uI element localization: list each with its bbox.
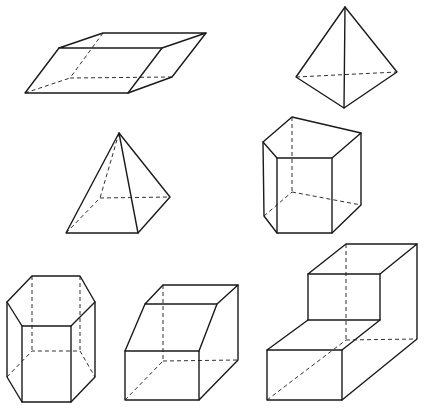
visible-edge: [344, 7, 345, 108]
background: [0, 0, 424, 414]
geometric-solids-diagram: [0, 0, 424, 414]
